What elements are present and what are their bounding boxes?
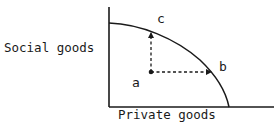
ppf-diagram: Social goods Private goods c b a: [0, 0, 274, 124]
y-axis-label: Social goods: [4, 42, 94, 55]
ppf-graphic: [0, 0, 274, 124]
x-axis-label: Private goods: [118, 109, 216, 122]
point-a-dot: [149, 70, 154, 75]
point-b-label: b: [219, 60, 227, 73]
frontier-curve: [109, 23, 229, 107]
point-c-label: c: [157, 12, 165, 25]
point-a-label: a: [132, 76, 140, 89]
